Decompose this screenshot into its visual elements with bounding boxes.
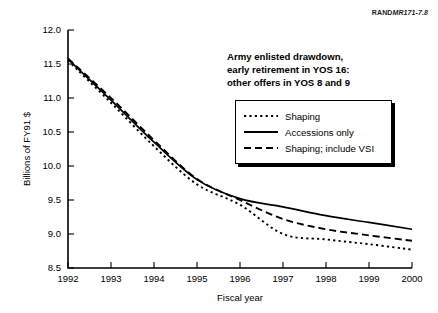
chart-annotation: Army enlisted drawdown, early retirement…: [227, 50, 409, 90]
figure-container: RANDMR171-7.8 8.59.09.510.010.511.011.51…: [0, 0, 438, 313]
legend-item[interactable]: Accessions only: [244, 124, 383, 140]
x-tick-label: 1995: [186, 273, 207, 284]
x-tick-label: 1997: [272, 273, 293, 284]
y-tick-label: 9.0: [48, 228, 61, 239]
y-tick-label: 10.0: [43, 160, 62, 171]
annotation-line-1: Army enlisted drawdown,: [227, 50, 409, 63]
x-tick-label: 1998: [315, 273, 336, 284]
y-axis-title: Billions of FY91 $: [21, 111, 32, 186]
x-tick-label: 1994: [143, 273, 164, 284]
x-tick-label: 1996: [229, 273, 250, 284]
y-tick-label: 10.5: [43, 126, 62, 137]
legend-item-label: Shaping: [285, 111, 320, 122]
legend-item[interactable]: Shaping; include VSI: [244, 140, 383, 156]
x-axis-title: Fiscal year: [217, 292, 263, 303]
legend-item[interactable]: Shaping: [244, 108, 383, 124]
legend-item-label: Accessions only: [285, 127, 354, 138]
legend-line-swatch-dashed: [244, 142, 278, 154]
chart-legend: ShapingAccessions onlyShaping; include V…: [235, 100, 392, 164]
y-tick-label: 8.5: [48, 262, 61, 273]
x-tick-label: 1993: [100, 273, 121, 284]
y-tick-label: 12.0: [43, 24, 62, 35]
x-tick-label: 2000: [401, 273, 422, 284]
legend-line-swatch-dotted: [244, 110, 278, 122]
legend-item-label: Shaping; include VSI: [285, 143, 374, 154]
x-tick-label: 1992: [57, 273, 78, 284]
y-tick-label: 11.5: [43, 58, 61, 69]
legend-line-swatch-solid: [244, 126, 278, 138]
x-tick-label: 1999: [358, 273, 379, 284]
y-tick-label: 9.5: [48, 194, 61, 205]
y-tick-label: 11.0: [43, 92, 61, 103]
annotation-line-2: early retirement in YOS 16:: [227, 63, 409, 76]
annotation-line-3: other offers in YOS 8 and 9: [227, 76, 409, 89]
